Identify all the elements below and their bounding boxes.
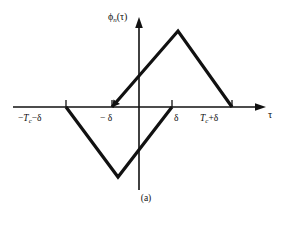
tick-suffix: +δ (208, 113, 218, 123)
figure-container: ϕn(τ) τ −Tc−δ − δ δ Tc+δ (a) (0, 0, 292, 225)
x-tick-label-minus-delta: − δ (100, 114, 112, 124)
figure-caption: (a) (0, 193, 292, 203)
x-tick-label-Tc-plus-delta: Tc+δ (200, 114, 218, 125)
y-axis-arrowhead (135, 17, 143, 28)
waveform-positive-lobe (112, 31, 232, 107)
y-axis-label: ϕn(τ) (108, 12, 127, 24)
x-tick-marks (66, 100, 232, 107)
x-axis-label: τ (268, 110, 272, 121)
correlation-plot-svg (0, 0, 292, 225)
x-axis-arrowhead (255, 103, 266, 111)
x-tick-label-minus-Tc-minus-delta: −Tc−δ (18, 114, 42, 125)
x-tick-label-plus-delta: δ (174, 114, 178, 124)
waveform-group (66, 31, 232, 177)
y-axis-group (135, 17, 143, 190)
waveform-negative-lobe (66, 107, 172, 177)
y-axis-label-argument: (τ) (117, 11, 128, 22)
tick-suffix: −δ (32, 113, 42, 123)
